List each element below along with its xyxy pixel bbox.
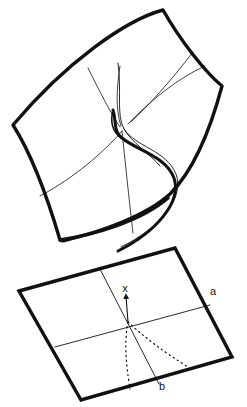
label-axis-x: x bbox=[122, 282, 128, 294]
canvas-background bbox=[0, 0, 247, 407]
cusp-catastrophe-figure: a b x bbox=[0, 0, 247, 407]
figure-canvas: a b x bbox=[0, 0, 247, 407]
label-axis-b: b bbox=[159, 380, 165, 392]
label-axis-a: a bbox=[210, 285, 217, 297]
